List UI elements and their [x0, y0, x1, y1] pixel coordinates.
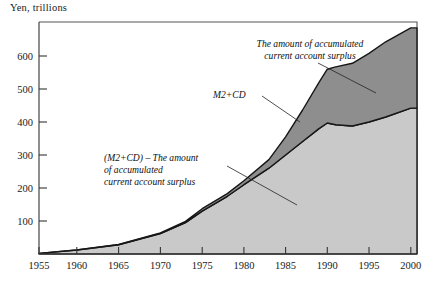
annotation-line: current account surplus	[264, 50, 356, 61]
annotation-line: The amount of accumulated	[257, 38, 364, 49]
x-tick-label: 1960	[66, 260, 87, 271]
x-tick-label: 1985	[275, 260, 296, 271]
annotation-line: of accumulated	[104, 164, 163, 175]
annotation-line: (M2+CD) – The amount	[104, 152, 198, 164]
chart-svg: 600 500 400 300 200 100 1955 1960 1965 1…	[0, 0, 439, 282]
area-m2cd-minus-surplus	[39, 108, 417, 254]
annotation-line: current account surplus	[104, 176, 196, 187]
y-tick-label: 300	[17, 150, 33, 161]
annotation-leader-line	[262, 96, 300, 122]
y-tick-label: 200	[17, 183, 33, 194]
x-tick-label: 1965	[108, 260, 129, 271]
annotation-m2cd: M2+CD	[212, 89, 300, 122]
y-tick-label: 400	[17, 117, 33, 128]
y-tick-label: 100	[17, 216, 33, 227]
x-tick-label: 1980	[233, 260, 254, 271]
y-tick-label: 600	[17, 51, 33, 62]
x-tick-label: 1995	[359, 260, 380, 271]
y-tick-label: 500	[17, 84, 33, 95]
y-axis-ticks	[39, 56, 47, 221]
y-axis-tick-labels: 600 500 400 300 200 100	[17, 51, 33, 227]
x-tick-label: 1975	[192, 260, 213, 271]
chart-container: Yen, trillions 600 500 400 300 200 100	[0, 0, 439, 282]
x-tick-label: 2000	[400, 260, 421, 271]
annotation-line: M2+CD	[212, 89, 246, 100]
x-axis-tick-labels: 1955 1960 1965 1970 1975 1980 1985 1990 …	[29, 260, 422, 271]
x-tick-label: 1990	[317, 260, 338, 271]
x-tick-label: 1955	[29, 260, 50, 271]
x-tick-label: 1970	[150, 260, 171, 271]
